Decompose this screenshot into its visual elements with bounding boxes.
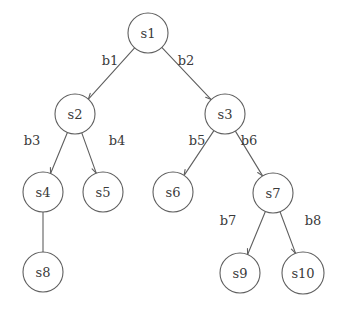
edge-label-b3: b3	[24, 133, 41, 148]
node-label-s7: s7	[266, 186, 281, 201]
node-label-s4: s4	[36, 185, 51, 200]
node-label-s2: s2	[68, 107, 83, 122]
tree-diagram-canvas: s1s2s3s4s5s6s7s8s9s10 b1b2b3b4b5b6b7b8	[0, 0, 348, 323]
edge-label-b7: b7	[220, 213, 237, 228]
edge-layer	[43, 47, 296, 254]
node-label-s3: s3	[218, 107, 233, 122]
node-label-s8: s8	[36, 265, 51, 280]
tree-edge-b4	[82, 133, 96, 173]
edge-label-b8: b8	[305, 213, 322, 228]
tree-edge-b7	[248, 211, 266, 254]
tree-diagram: s1s2s3s4s5s6s7s8s9s10 b1b2b3b4b5b6b7b8	[0, 0, 348, 323]
tree-node-s3[interactable]: s3	[205, 94, 245, 134]
edge-label-b1: b1	[102, 53, 119, 68]
edge-label-b6: b6	[241, 133, 258, 148]
node-layer: s1s2s3s4s5s6s7s8s9s10	[23, 13, 324, 294]
edge-label-b4: b4	[109, 133, 126, 148]
tree-node-s2[interactable]: s2	[55, 94, 95, 134]
tree-node-s4[interactable]: s4	[23, 172, 63, 212]
node-label-s10: s10	[291, 266, 314, 281]
tree-node-s1[interactable]: s1	[128, 13, 168, 53]
tree-node-s9[interactable]: s9	[220, 253, 260, 293]
node-label-s5: s5	[96, 185, 111, 200]
edge-label-b2: b2	[178, 53, 195, 68]
node-label-s6: s6	[166, 185, 181, 200]
tree-node-s7[interactable]: s7	[253, 173, 293, 213]
tree-edge-b3	[51, 133, 68, 174]
tree-edge-b8	[280, 212, 296, 254]
tree-node-s8[interactable]: s8	[23, 252, 63, 292]
tree-node-s6[interactable]: s6	[153, 172, 193, 212]
tree-node-s10[interactable]: s10	[282, 252, 324, 294]
edge-label-b5: b5	[189, 133, 206, 148]
tree-node-s5[interactable]: s5	[83, 172, 123, 212]
node-label-s9: s9	[233, 266, 248, 281]
node-label-s1: s1	[141, 26, 156, 41]
